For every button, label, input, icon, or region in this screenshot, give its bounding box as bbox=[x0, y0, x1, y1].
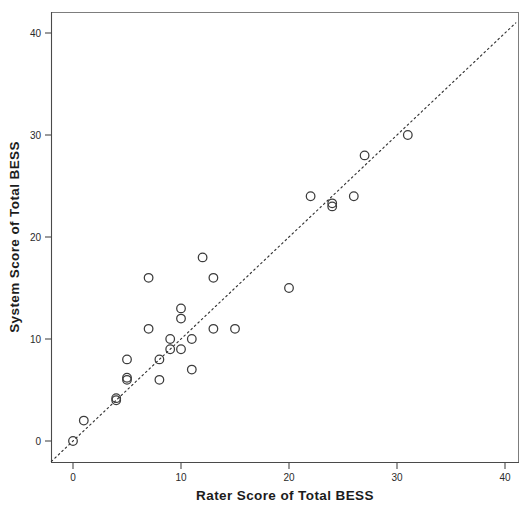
x-tick-label: 10 bbox=[175, 472, 187, 483]
y-axis-title: System Score of Total BESS bbox=[7, 141, 22, 333]
y-tick-label: 30 bbox=[30, 130, 42, 141]
y-tick-label: 0 bbox=[35, 436, 41, 447]
y-tick-label: 20 bbox=[30, 232, 42, 243]
plot-canvas: 010203040 010203040 Rater Score of Total… bbox=[0, 0, 521, 514]
x-axis-title: Rater Score of Total BESS bbox=[196, 488, 374, 503]
x-tick-label: 40 bbox=[499, 472, 511, 483]
x-tick-label: 30 bbox=[391, 472, 403, 483]
y-tick-label: 40 bbox=[30, 28, 42, 39]
scatter-plot-figure: 010203040 010203040 Rater Score of Total… bbox=[0, 0, 521, 514]
x-tick-label: 0 bbox=[70, 472, 76, 483]
figure-background bbox=[0, 0, 521, 514]
y-tick-label: 10 bbox=[30, 334, 42, 345]
x-tick-label: 20 bbox=[283, 472, 295, 483]
